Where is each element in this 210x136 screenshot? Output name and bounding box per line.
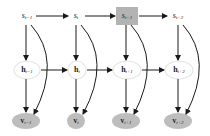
label-v-t: vt xyxy=(73,117,78,126)
label-s-t: st xyxy=(74,12,79,21)
label-v-t-plus-2: vt+2 xyxy=(172,117,183,126)
label-h-t-minus-1: ht−1 xyxy=(21,66,33,75)
label-h-t-plus-2: ht+2 xyxy=(173,66,185,75)
label-h-t-plus-1: ht+1 xyxy=(121,66,133,75)
label-h-t: ht xyxy=(74,66,80,75)
label-s-t-plus-2: st+2 xyxy=(173,12,183,21)
label-v-t-minus-1: vt−1 xyxy=(20,117,31,126)
label-s-t-minus-1: st−1 xyxy=(22,12,32,21)
label-s-t-plus-1: st+1 xyxy=(122,12,132,21)
label-v-t-plus-1: vt+1 xyxy=(120,117,131,126)
